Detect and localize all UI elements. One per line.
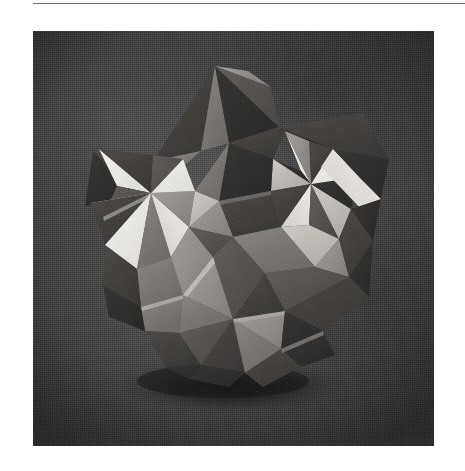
polyhedron-model	[33, 31, 434, 446]
top-horizontal-rule	[33, 3, 465, 4]
polyhedron-facets	[85, 66, 389, 387]
figure-page	[0, 0, 465, 471]
figure-photograph	[33, 31, 434, 446]
